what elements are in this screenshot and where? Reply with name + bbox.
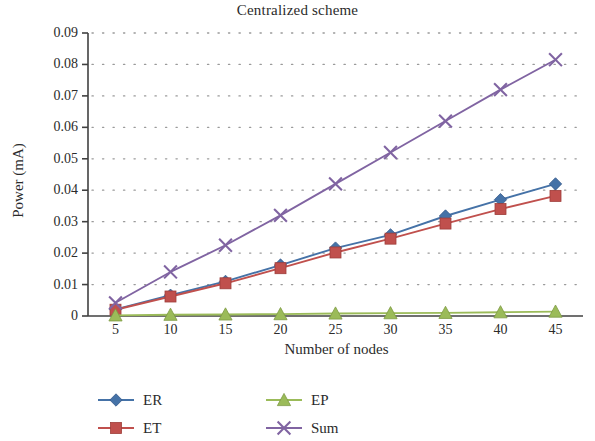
square-data-marker <box>330 247 341 258</box>
x-tick-label: 10 <box>149 323 193 337</box>
legend-label: ET <box>143 420 161 437</box>
series-ep <box>109 305 562 321</box>
y-tick-label: 0.09 <box>22 26 78 40</box>
x-tick-label: 45 <box>534 323 578 337</box>
y-tick-label: 0.03 <box>22 215 78 229</box>
axis-lines <box>88 33 583 316</box>
x-tick-label: 15 <box>204 323 248 337</box>
x-tick-label: 5 <box>94 323 138 337</box>
square-data-marker <box>111 423 122 434</box>
y-tick-label: 0.07 <box>22 89 78 103</box>
square-data-marker <box>495 204 506 215</box>
data-series-layer <box>109 53 562 321</box>
square-data-marker <box>550 190 561 201</box>
cross-data-marker <box>274 209 287 222</box>
square-marker <box>96 418 136 438</box>
legend-label: EP <box>311 392 329 409</box>
square-data-marker <box>385 233 396 244</box>
plot-area <box>0 0 595 441</box>
square-data-marker <box>165 291 176 302</box>
legend-item-sum[interactable]: Sum <box>264 418 432 438</box>
x-tick-label: 35 <box>424 323 468 337</box>
y-tick-label: 0.02 <box>22 246 78 260</box>
legend-label: ER <box>143 392 162 409</box>
x-tick-label: 30 <box>369 323 413 337</box>
square-data-marker <box>275 263 286 274</box>
y-tick-label: 0 <box>22 309 78 323</box>
axis-tickmarks <box>82 33 88 316</box>
cross-data-marker <box>164 266 177 279</box>
cross-marker <box>264 418 304 438</box>
square-data-marker <box>220 278 231 289</box>
cross-data-marker <box>384 146 397 159</box>
cross-data-marker <box>329 178 342 191</box>
cross-data-marker <box>219 239 232 252</box>
diamond-data-marker <box>110 394 122 406</box>
diamond-data-marker <box>549 178 561 190</box>
series-sum <box>109 53 562 309</box>
cross-data-marker <box>494 83 507 96</box>
legend-item-ep[interactable]: EP <box>264 390 432 410</box>
x-tick-label: 40 <box>479 323 523 337</box>
square-data-marker <box>440 218 451 229</box>
x-tick-label: 25 <box>314 323 358 337</box>
x-tick-label: 20 <box>259 323 303 337</box>
y-tick-label: 0.08 <box>22 57 78 71</box>
y-tick-label: 0.01 <box>22 278 78 292</box>
y-tick-label: 0.04 <box>22 183 78 197</box>
legend-item-er[interactable]: ER <box>96 390 264 410</box>
y-tick-label: 0.06 <box>22 120 78 134</box>
diamond-marker <box>96 390 136 410</box>
legend-label: Sum <box>311 420 339 437</box>
legend-item-et[interactable]: ET <box>96 418 264 438</box>
chart-figure: Centralized scheme Power (mA) Number of … <box>0 0 595 441</box>
chart-legend: EREPETSum <box>96 386 516 441</box>
y-tick-label: 0.05 <box>22 152 78 166</box>
triangle-marker <box>264 390 304 410</box>
cross-data-marker <box>439 115 452 128</box>
